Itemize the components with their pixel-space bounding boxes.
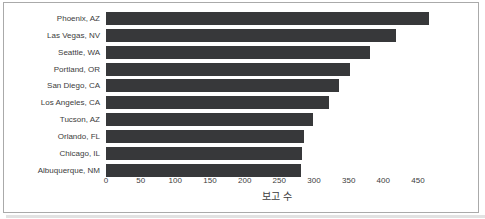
chart-panel: Phoenix, AZLas Vegas, NVSeattle, WAPortl… bbox=[0, 0, 485, 219]
bar bbox=[106, 164, 301, 177]
x-axis-label: 보고 수 bbox=[262, 188, 292, 203]
x-tick-label: 50 bbox=[136, 176, 145, 185]
x-tick-label: 400 bbox=[377, 176, 390, 185]
category-label: Albuquerque, NM bbox=[0, 164, 100, 177]
x-tick-label: 350 bbox=[342, 176, 355, 185]
category-label: Orlando, FL bbox=[0, 130, 100, 143]
category-label: Chicago, IL bbox=[0, 147, 100, 160]
category-label: Phoenix, AZ bbox=[0, 12, 100, 25]
x-tick-label: 0 bbox=[104, 176, 108, 185]
x-tick-label: 300 bbox=[307, 176, 320, 185]
bar bbox=[106, 63, 350, 76]
category-label: Seattle, WA bbox=[0, 46, 100, 59]
bar bbox=[106, 46, 370, 59]
x-tick-label: 450 bbox=[411, 176, 424, 185]
bar bbox=[106, 29, 396, 42]
category-label: Las Vegas, NV bbox=[0, 29, 100, 42]
bar bbox=[106, 79, 339, 92]
category-label: Portland, OR bbox=[0, 63, 100, 76]
panel-shadow bbox=[6, 215, 485, 218]
category-label: Los Angeles, CA bbox=[0, 96, 100, 109]
category-label: San Diego, CA bbox=[0, 79, 100, 92]
bar bbox=[106, 12, 429, 25]
x-tick-label: 100 bbox=[169, 176, 182, 185]
bar bbox=[106, 147, 302, 160]
category-label: Tucson, AZ bbox=[0, 113, 100, 126]
bar bbox=[106, 113, 313, 126]
bar bbox=[106, 130, 304, 143]
x-tick-label: 200 bbox=[238, 176, 251, 185]
x-tick-label: 250 bbox=[273, 176, 286, 185]
bar bbox=[106, 96, 329, 109]
x-tick-label: 150 bbox=[203, 176, 216, 185]
